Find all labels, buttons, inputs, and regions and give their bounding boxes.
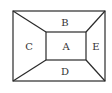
- region-label-a: A: [61, 41, 70, 52]
- region-label-e: E: [92, 41, 99, 52]
- region-label-c: C: [25, 41, 33, 52]
- diagonal-top-right: [86, 11, 105, 32]
- diagonal-top-left: [13, 11, 46, 32]
- region-label-d: D: [61, 66, 69, 77]
- diagonal-bottom-left: [13, 60, 46, 81]
- region-label-b: B: [61, 17, 68, 28]
- region-diagram: A B C D E: [0, 0, 112, 93]
- diagonal-bottom-right: [86, 60, 105, 81]
